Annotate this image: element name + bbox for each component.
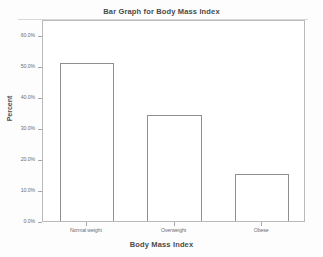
chart-title: Bar Graph for Body Mass Index bbox=[0, 7, 323, 16]
bar bbox=[235, 174, 289, 221]
bar-chart-figure: Bar Graph for Body Mass Index Percent 0.… bbox=[0, 0, 323, 257]
y-axis-tick-mark bbox=[38, 222, 42, 223]
y-axis-tick-label: 60.0% bbox=[21, 32, 35, 38]
y-axis-tick-label: 30.0% bbox=[21, 125, 35, 131]
x-axis-title: Body Mass Index bbox=[0, 240, 323, 249]
plot-area bbox=[42, 20, 305, 222]
x-axis-tick-mark bbox=[174, 222, 175, 226]
x-axis-tick-mark bbox=[86, 222, 87, 226]
y-axis-tick-label: 0.0% bbox=[24, 218, 35, 224]
y-axis-tick-label: 20.0% bbox=[21, 156, 35, 162]
y-axis-title: Percent bbox=[6, 79, 13, 139]
x-axis-tick-label: Overweight bbox=[129, 227, 219, 233]
y-axis-tick-label: 40.0% bbox=[21, 94, 35, 100]
bar bbox=[60, 63, 114, 221]
y-axis-tick-label: 10.0% bbox=[21, 187, 35, 193]
x-axis-tick-label: Obese bbox=[216, 227, 306, 233]
x-axis-tick-mark bbox=[261, 222, 262, 226]
bar bbox=[147, 115, 201, 221]
y-axis-tick-label: 50.0% bbox=[21, 63, 35, 69]
x-axis-tick-label: Normal weight bbox=[41, 227, 131, 233]
